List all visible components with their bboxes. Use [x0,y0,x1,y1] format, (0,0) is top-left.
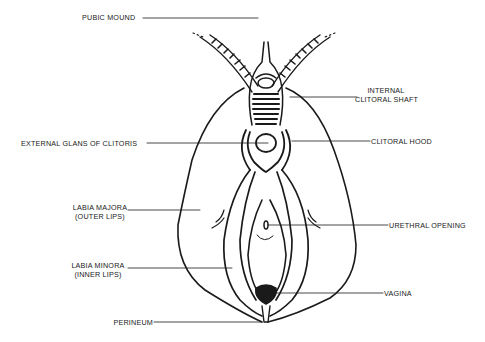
label-labia-minora-line2: (INNER LIPS) [68,270,128,279]
label-urethral-opening: URETHRAL OPENING [389,221,466,230]
label-labia-minora: LABIA MINORA (INNER LIPS) [68,261,128,279]
dotted-extension [193,33,335,37]
label-internal-clitoral-shaft: INTERNAL CLITORAL SHAFT [355,86,417,104]
vaginal-opening [256,285,277,322]
label-labia-majora: LABIA MAJORA (OUTER LIPS) [70,203,130,221]
clitoral-shaft [249,42,282,125]
label-vagina: VAGINA [384,289,412,298]
label-clitoral-hood: CLITORAL HOOD [371,137,432,146]
label-external-glans: EXTERNAL GLANS OF CLITORIS [21,139,137,148]
vestibule [248,200,286,292]
label-labia-majora-line1: LABIA MAJORA [70,203,130,212]
label-perineum: PERINEUM [108,318,153,327]
label-internal-clitoral-shaft-line2: CLITORAL SHAFT [355,95,417,104]
pubic-bone-left [200,35,258,92]
clitoral-glans [242,130,290,172]
label-labia-majora-line2: (OUTER LIPS) [70,212,130,221]
anatomy-drawing [0,0,485,342]
anatomy-diagram: PUBIC MOUND INTERNAL CLITORAL SHAFT EXTE… [0,0,485,342]
label-labia-minora-line1: LABIA MINORA [68,261,128,270]
label-internal-clitoral-shaft-line1: INTERNAL [355,86,417,95]
label-pubic-mound: PUBIC MOUND [82,13,135,22]
